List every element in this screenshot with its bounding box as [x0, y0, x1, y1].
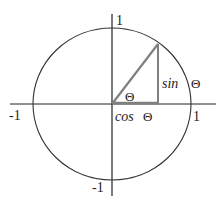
y-top-label: 1 [116, 13, 123, 28]
x-left-label: -1 [9, 108, 21, 123]
hypotenuse-radius [112, 44, 158, 104]
y-bottom-label: -1 [92, 180, 104, 195]
sin-label: sin [162, 76, 178, 91]
cos-theta-label: Θ [143, 109, 152, 124]
cos-label: cos [115, 109, 134, 124]
unit-circle-diagram: 1 -1 1 -1 Θ sin Θ cos Θ [0, 0, 224, 207]
x-right-label: 1 [193, 109, 200, 124]
sin-theta-label: Θ [191, 76, 200, 91]
angle-theta-label: Θ [125, 89, 134, 104]
